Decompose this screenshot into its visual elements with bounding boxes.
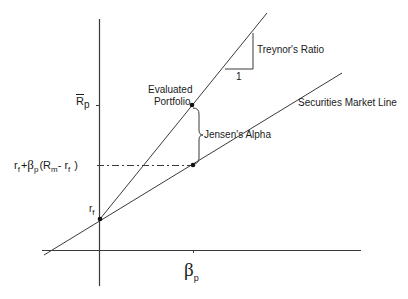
- treynors-ratio-label: Treynor's Ratio: [257, 45, 324, 55]
- rf-label: rf: [89, 204, 95, 214]
- er-open: (R: [39, 159, 51, 171]
- evaluated-line2: Portfolio: [152, 96, 192, 108]
- jensens-alpha-label: Jensen's Alpha: [204, 130, 271, 140]
- er-p: p: [34, 165, 38, 174]
- jensen-brace: [193, 108, 203, 164]
- diagram-canvas: Rp rf+βp(Rm- rf) rf βp Evaluated Portfol…: [0, 0, 408, 299]
- er-minus: - r: [58, 159, 68, 171]
- rp-bar-label: Rp: [76, 96, 90, 107]
- evaluated-line1: Evaluated: [148, 84, 192, 96]
- sml-expected-point: [191, 163, 196, 168]
- treynor-triangle: [225, 33, 253, 69]
- er-f: f: [18, 165, 20, 174]
- rf-sub: f: [92, 208, 94, 217]
- expected-return-label: rf+βp(Rm- rf): [14, 158, 78, 171]
- beta-main: β: [184, 259, 194, 280]
- er-f2: f: [68, 165, 70, 174]
- diagram-lines: [0, 0, 408, 299]
- er-beta: β: [27, 157, 34, 172]
- rp-main: R: [76, 95, 84, 107]
- rp-sub: p: [84, 99, 90, 110]
- beta-p-label: βp: [184, 260, 199, 279]
- sml-label: Securities Market Line: [298, 98, 397, 108]
- evaluated-portfolio-label: Evaluated Portfolio: [148, 84, 192, 108]
- risk-free-point: [98, 217, 103, 222]
- beta-sub: p: [194, 273, 199, 283]
- slope-unit-label: 1: [236, 72, 242, 82]
- portfolio-line: [100, 13, 267, 219]
- er-m: m: [51, 165, 58, 174]
- er-close: ): [74, 159, 78, 171]
